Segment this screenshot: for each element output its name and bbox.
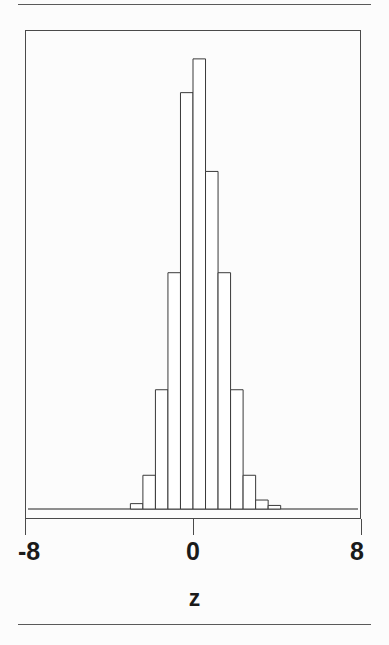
bottom-divider-rule [18,624,371,625]
histogram-bar [143,475,156,509]
histogram-bar [256,500,269,509]
x-axis-tick-mark [193,519,194,535]
histogram-bars [130,59,280,509]
histogram-bar [168,273,181,509]
x-axis-tick-label: 8 [350,539,364,564]
plot-inner-area [26,31,360,518]
x-axis-tick-mark [361,519,362,535]
x-axis: -8 0 8 [25,519,361,579]
histogram-bar [155,390,168,509]
x-axis-tick-label: -8 [18,539,40,564]
histogram-bar [130,504,143,509]
figure-page: -8 0 8 z [0,0,389,645]
x-axis-tick-label: 0 [186,539,200,564]
histogram-bar [206,171,219,509]
histogram-bar [243,475,256,509]
histogram-plot [26,31,360,518]
histogram-bar [218,273,231,509]
x-axis-tick-mark [25,519,26,535]
histogram-bar [193,59,206,509]
histogram-bar [180,93,193,509]
top-divider-rule [18,4,371,5]
plot-frame [25,30,361,519]
histogram-bar [231,390,244,509]
histogram-bar [268,505,281,509]
x-axis-title: z [0,585,389,612]
